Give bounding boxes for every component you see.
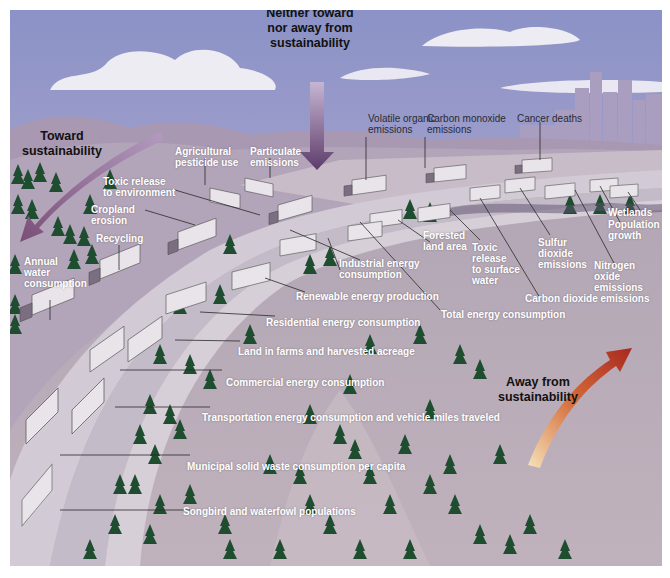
label-line: oxide xyxy=(594,271,643,282)
label-songbird-waterfowl-populations: Songbird and waterfowl populations xyxy=(183,506,356,517)
label-sulfur-dioxide-emissions: Sulfur dioxide emissions xyxy=(538,237,587,270)
toward-label-line2: sustainability xyxy=(22,144,102,159)
label-line: to environment xyxy=(103,187,175,198)
label-cropland-erosion: Cropland erosion xyxy=(91,204,135,226)
label-line: emissions xyxy=(427,124,506,135)
label-line: pesticide use xyxy=(175,157,238,168)
label-line: Cropland xyxy=(91,204,135,215)
label-particulate-emissions: Particulate emissions xyxy=(250,146,301,168)
label-line: Toxic xyxy=(472,242,520,253)
label-recycling: Recycling xyxy=(96,233,143,244)
label-line: Renewable energy production xyxy=(296,291,439,302)
label-land-in-farms: Land in farms and harvested acreage xyxy=(238,346,415,357)
label-line: Industrial energy xyxy=(339,258,420,269)
label-line: Residential energy consumption xyxy=(266,317,420,328)
label-line: Agricultural xyxy=(175,146,238,157)
label-line: Songbird and waterfowl populations xyxy=(183,506,356,517)
label-line: Toxic release xyxy=(103,176,175,187)
label-line: consumption xyxy=(24,278,87,289)
label-industrial-energy-consumption: Industrial energy consumption xyxy=(339,258,420,280)
label-toxic-release-to-surface-water: Toxic release to surface water xyxy=(472,242,520,286)
label-residential-energy-consumption: Residential energy consumption xyxy=(266,317,420,328)
label-carbon-monoxide-emissions: Carbon monoxide emissions xyxy=(427,113,506,135)
label-line: Commercial energy consumption xyxy=(226,377,384,388)
label-line: water xyxy=(24,267,87,278)
label-carbon-dioxide-emissions: Carbon dioxide emissions xyxy=(525,293,649,304)
sustainability-illustration: Neither toward nor away from sustainabil… xyxy=(10,10,662,566)
away-label: Away from sustainability xyxy=(498,375,578,405)
landscape-background xyxy=(10,10,662,566)
label-toxic-release-to-environment: Toxic release to environment xyxy=(103,176,175,198)
label-population-growth: Population growth xyxy=(608,219,660,241)
label-line: erosion xyxy=(91,215,135,226)
label-cancer-deaths: Cancer deaths xyxy=(517,113,582,124)
label-line: Land in farms and harvested acreage xyxy=(238,346,415,357)
label-renewable-energy-production: Renewable energy production xyxy=(296,291,439,302)
away-label-line1: Away from xyxy=(498,375,578,390)
label-line: growth xyxy=(608,230,660,241)
label-line: to surface xyxy=(472,264,520,275)
label-line: Forested xyxy=(423,230,467,241)
neither-label-line3: sustainability xyxy=(256,36,364,51)
label-line: Wetlands xyxy=(608,207,652,218)
toward-label: Toward sustainability xyxy=(22,129,102,159)
neither-label-line2: nor away from xyxy=(256,21,364,36)
toward-label-line1: Toward xyxy=(22,129,102,144)
label-line: emissions xyxy=(368,124,436,135)
neither-label-line1: Neither toward xyxy=(256,10,364,21)
label-total-energy-consumption: Total energy consumption xyxy=(441,309,565,320)
label-agricultural-pesticide-use: Agricultural pesticide use xyxy=(175,146,238,168)
label-line: Municipal solid waste consumption per ca… xyxy=(187,461,405,472)
label-line: land area xyxy=(423,241,467,252)
label-line: Total energy consumption xyxy=(441,309,565,320)
label-line: Recycling xyxy=(96,233,143,244)
label-line: Carbon dioxide emissions xyxy=(525,293,649,304)
label-line: Volatile organic xyxy=(368,113,436,124)
label-line: consumption xyxy=(339,269,420,280)
label-forested-land-area: Forested land area xyxy=(423,230,467,252)
label-nitrogen-oxide-emissions: Nitrogen oxide emissions xyxy=(594,260,643,293)
label-line: Population xyxy=(608,219,660,230)
label-volatile-organic-emissions: Volatile organic emissions xyxy=(368,113,436,135)
label-line: Sulfur xyxy=(538,237,587,248)
label-line: emissions xyxy=(250,157,301,168)
label-line: dioxide xyxy=(538,248,587,259)
label-line: Cancer deaths xyxy=(517,113,582,124)
label-line: release xyxy=(472,253,520,264)
label-wetlands: Wetlands xyxy=(608,207,652,218)
label-line: water xyxy=(472,275,520,286)
label-line: Carbon monoxide xyxy=(427,113,506,124)
label-line: Annual xyxy=(24,256,87,267)
label-line: Particulate xyxy=(250,146,301,157)
label-line: Nitrogen xyxy=(594,260,643,271)
label-line: Transportation energy consumption and ve… xyxy=(202,412,500,423)
label-annual-water-consumption: Annual water consumption xyxy=(24,256,87,289)
label-transportation-energy-consumption: Transportation energy consumption and ve… xyxy=(202,412,500,423)
label-line: emissions xyxy=(538,259,587,270)
label-municipal-solid-waste: Municipal solid waste consumption per ca… xyxy=(187,461,405,472)
label-line: emissions xyxy=(594,282,643,293)
label-commercial-energy-consumption: Commercial energy consumption xyxy=(226,377,384,388)
away-label-line2: sustainability xyxy=(498,390,578,405)
